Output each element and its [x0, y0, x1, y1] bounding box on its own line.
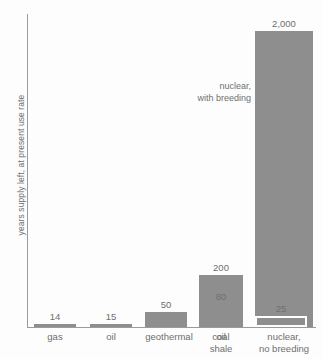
bar-geothermal — [145, 312, 187, 327]
value-label-coal: 200 — [199, 262, 243, 273]
bar-oil — [90, 324, 132, 327]
value-label-oil-shale: 80 — [200, 291, 242, 302]
x-label-nuclear-no-breeding-line2: no breeding — [248, 343, 320, 355]
bar-nuclear-with-breeding — [255, 31, 313, 327]
y-axis-title: years supply left, at present use rate — [16, 70, 26, 260]
x-label-nuclear-no-breeding: nuclear, no breeding — [248, 331, 320, 355]
value-label-gas: 14 — [34, 311, 76, 322]
value-label-oil: 15 — [90, 311, 132, 322]
x-label-geothermal: geothermal — [134, 331, 204, 343]
annotation-nuclear-with-breeding: nuclear, with breeding — [123, 80, 251, 104]
bar-nuclear-no-breeding — [255, 316, 307, 327]
x-axis-line — [27, 327, 316, 328]
x-label-geothermal-line1: geothermal — [134, 331, 204, 343]
annotation-line-1: nuclear, — [123, 80, 251, 92]
x-label-coal: coal — [199, 331, 243, 343]
x-label-nuclear-no-breeding-line1: nuclear, — [248, 331, 320, 343]
x-label-oil-shale-line2: shale — [200, 343, 242, 355]
plot-area: 14 15 50 80 200 25 2,000 nuclear, with b… — [28, 14, 316, 327]
x-label-oil: oil — [90, 331, 132, 343]
value-label-nuclear-no-breeding: 25 — [255, 303, 307, 314]
bar-chart: years supply left, at present use rate — [0, 0, 323, 359]
x-label-coal-line1: coal — [199, 331, 243, 343]
x-label-gas-line1: gas — [34, 331, 76, 343]
annotation-line-2: with breeding — [123, 92, 251, 104]
value-label-nuclear-with-breeding: 2,000 — [255, 18, 313, 29]
bar-gas — [34, 324, 76, 327]
value-label-geothermal: 50 — [145, 299, 187, 310]
x-label-oil-line1: oil — [90, 331, 132, 343]
x-label-gas: gas — [34, 331, 76, 343]
